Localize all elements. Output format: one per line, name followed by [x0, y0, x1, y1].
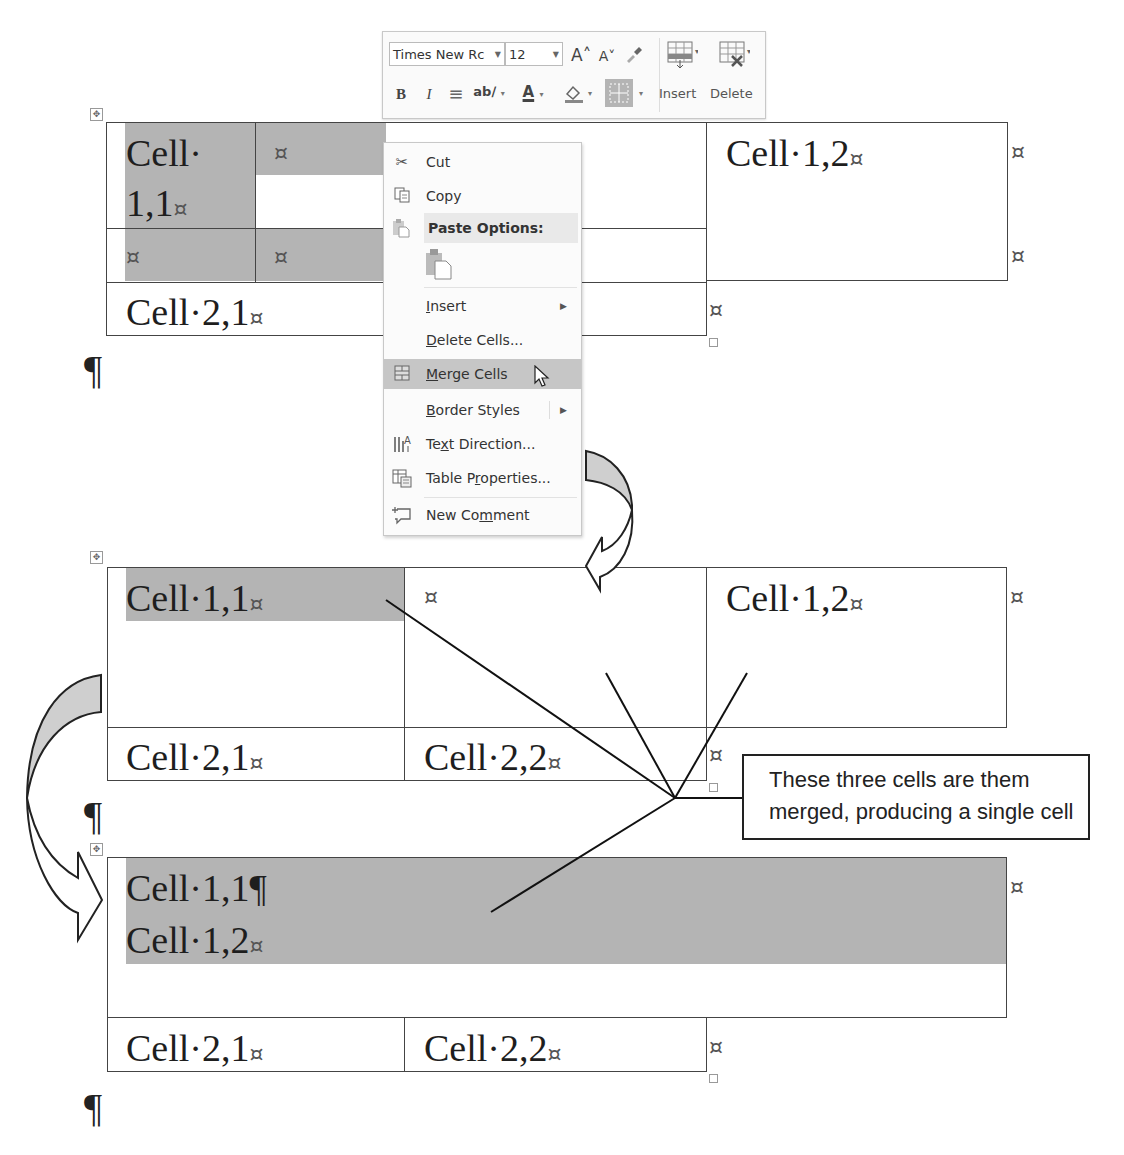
callout-line2: merged, producing a single cell	[769, 796, 1088, 828]
callout-lines	[386, 600, 747, 912]
callout-line1: These three cells are them	[769, 764, 1088, 796]
annotation-overlay	[0, 0, 1124, 1155]
curved-arrow-icon	[27, 675, 102, 940]
callout-box: These three cells are them merged, produ…	[742, 754, 1090, 840]
curved-arrow-icon	[586, 451, 632, 590]
